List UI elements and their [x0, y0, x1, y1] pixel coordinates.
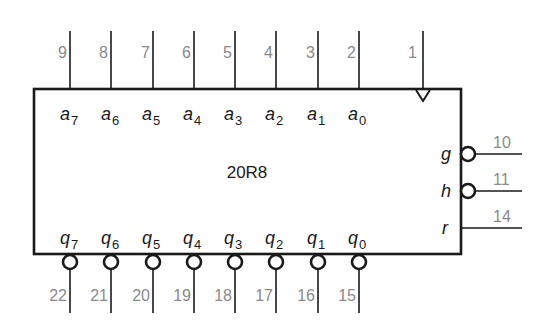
clock-pin: 1: [408, 31, 430, 101]
signal-label: q2: [265, 228, 283, 252]
signal-label: q1: [307, 228, 325, 252]
pin-number: 16: [297, 287, 315, 304]
pin-number: 5: [223, 44, 232, 61]
inversion-bubble-icon: [311, 255, 325, 269]
inversion-bubble-icon: [104, 255, 118, 269]
signal-label: a7: [60, 104, 78, 128]
signal-label: q6: [101, 228, 119, 252]
pin-number: 14: [493, 208, 511, 225]
output-pin-q3: q3 18: [214, 228, 242, 313]
bottom-pins: q7 22 q6 21 q5 20 q4 19 q3 18: [49, 228, 366, 313]
pin-number: 17: [255, 287, 273, 304]
pin-number: 2: [347, 44, 356, 61]
signal-label: q4: [183, 228, 201, 252]
pin-number: 8: [99, 44, 108, 61]
inversion-bubble-icon: [228, 255, 242, 269]
pin-number: 19: [173, 287, 191, 304]
pin-number: 11: [493, 171, 510, 188]
pin-number: 3: [306, 44, 315, 61]
input-pin-a3: 5 a3: [223, 31, 242, 128]
output-pin-q0: q0 15: [338, 228, 366, 313]
pin-number: 15: [338, 287, 356, 304]
signal-label: a0: [348, 104, 366, 128]
signal-label: a3: [224, 104, 242, 128]
input-pin-g: g 10: [441, 134, 522, 164]
signal-label: q5: [142, 228, 160, 252]
pin-number: 7: [141, 44, 150, 61]
input-pin-a6: 8 a6: [99, 31, 119, 128]
output-pin-q5: q5 20: [132, 228, 160, 313]
inversion-bubble-icon: [63, 255, 77, 269]
chip-name: 20R8: [227, 163, 268, 182]
inversion-bubble-icon: [187, 255, 201, 269]
pin-number: 4: [264, 44, 273, 61]
signal-label: q3: [224, 228, 242, 252]
inversion-bubble-icon: [352, 255, 366, 269]
input-pin-a4: 6 a4: [182, 31, 201, 128]
inversion-bubble-icon: [461, 147, 475, 161]
output-pin-q2: q2 17: [255, 228, 283, 313]
right-pins: g 10 h 11 r 14: [441, 134, 522, 238]
inversion-bubble-icon: [146, 255, 160, 269]
pin-number: 18: [214, 287, 232, 304]
input-pin-h: h 11: [441, 171, 522, 201]
input-pin-a5: 7 a5: [141, 31, 160, 128]
pin-number: 9: [58, 44, 67, 61]
signal-label: a1: [307, 104, 325, 128]
inversion-bubble-icon: [461, 184, 475, 198]
top-pins: 9 a7 8 a6 7 a5 6 a4 5 a3 4 a2: [58, 31, 366, 128]
inversion-bubble-icon: [269, 255, 283, 269]
output-pin-q6: q6 21: [90, 228, 119, 313]
signal-label: a4: [183, 104, 201, 128]
output-pin-q1: q1 16: [297, 228, 325, 313]
output-pin-q4: q4 19: [173, 228, 201, 313]
input-pin-a7: 9 a7: [58, 31, 78, 128]
signal-label: a6: [101, 104, 119, 128]
signal-label: a2: [265, 104, 283, 128]
clock-triangle-icon: [416, 90, 430, 101]
pal-20r8-diagram: 20R8 9 a7 8 a6 7 a5 6 a4 5 a3: [0, 0, 550, 330]
signal-label: r: [442, 218, 449, 238]
output-pin-q7: q7 22: [49, 228, 78, 313]
input-pin-a1: 3 a1: [306, 31, 325, 128]
input-pin-r: r 14: [442, 208, 522, 238]
pin-number: 6: [182, 44, 191, 61]
signal-label: q0: [348, 228, 366, 252]
input-pin-a0: 2 a0: [347, 31, 366, 128]
pin-number: 20: [132, 287, 150, 304]
signal-label: q7: [60, 228, 78, 252]
signal-label: g: [441, 144, 451, 164]
pin-number: 10: [493, 134, 511, 151]
pin-number: 22: [49, 287, 67, 304]
pin-number: 1: [408, 44, 417, 61]
signal-label: h: [441, 181, 451, 201]
pin-number: 21: [90, 287, 108, 304]
input-pin-a2: 4 a2: [264, 31, 283, 128]
signal-label: a5: [142, 104, 160, 128]
